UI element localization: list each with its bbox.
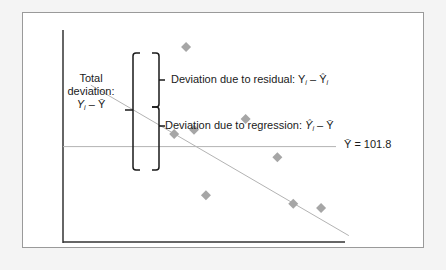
mean-label: Ȳ = 101.8 [344, 138, 391, 151]
residual-label: Deviation due to residual: Yi – Ŷi [171, 73, 328, 89]
total-formula: Yi – Ȳ [66, 98, 116, 114]
total-deviation-label: Total deviation: Yi – Ȳ [66, 72, 116, 114]
total-line1: Total [66, 72, 116, 85]
total-line2: deviation: [66, 85, 116, 98]
total-deviation-bracket [125, 53, 140, 170]
data-point [288, 199, 298, 209]
regression-line [91, 85, 349, 236]
regression-plot [0, 0, 446, 270]
data-point [316, 203, 326, 213]
data-point [272, 152, 282, 162]
data-point [181, 42, 191, 52]
data-point [201, 190, 211, 200]
regression-label: Deviation due to regression: Ŷi – Ȳ [165, 119, 334, 135]
regression-bracket [152, 107, 165, 170]
residual-bracket [152, 53, 165, 107]
